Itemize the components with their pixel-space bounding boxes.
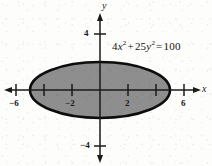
equation-rhs: 100: [164, 40, 181, 52]
ellipse-graph-figure: y x −6 −2 2 6 4 −4 4x2+25y2=100: [0, 0, 212, 166]
y-axis-label: y: [102, 1, 106, 11]
equation-plus: +: [127, 40, 135, 52]
coordinate-plane: [0, 0, 212, 166]
x-tick-label-neg2: −2: [65, 99, 75, 108]
equation-annotation: 4x2+25y2=100: [112, 40, 181, 52]
x-axis-label: x: [202, 84, 206, 94]
y-tick-label-pos4: 4: [84, 29, 89, 38]
y-tick-label-neg4: −4: [80, 141, 90, 150]
x-tick-label-neg6: −6: [9, 99, 19, 108]
equation-equals: =: [155, 40, 163, 52]
x-tick-label-pos2: 2: [125, 99, 130, 108]
x-tick-label-pos6: 6: [181, 99, 186, 108]
equation-exp-x: 2: [123, 39, 127, 47]
equation-coef-y: 25: [135, 40, 146, 52]
